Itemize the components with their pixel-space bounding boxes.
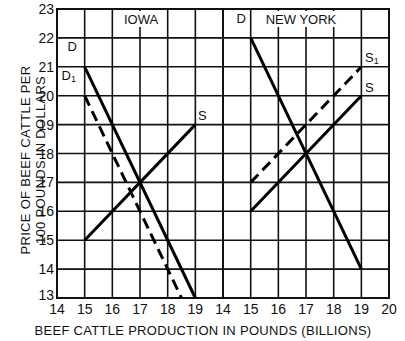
x-tick-label: 15 — [77, 301, 93, 317]
iowa-supply-label: S — [198, 108, 207, 123]
x-tick-label: 20 — [381, 301, 397, 317]
x-tick-label: 19 — [188, 301, 204, 317]
x-tick-label: 19 — [354, 301, 370, 317]
iowa-demand1-label: D1 — [62, 68, 76, 84]
y-axis-label-line2: 100 POUNDS IN DOLLARS — [33, 76, 48, 244]
ny-supply1-label: S1 — [365, 50, 379, 66]
y-tick-label: 14 — [38, 261, 54, 277]
x-tick-label: 18 — [160, 301, 176, 317]
supply-demand-chart: 1314151617181920212223 14151617181914151… — [0, 0, 405, 341]
y-tick-label: 21 — [38, 59, 54, 75]
x-tick-label: 17 — [132, 301, 148, 317]
ny-demand-label: D — [237, 11, 246, 26]
x-tick-label: 15 — [243, 301, 259, 317]
x-tick-label: 16 — [105, 301, 121, 317]
x-tick-label: 18 — [326, 301, 342, 317]
panel-title-new-york: NEW YORK — [266, 12, 337, 27]
x-tick-label: 14 — [49, 301, 65, 317]
x-axis-label: BEEF CATTLE PRODUCTION IN POUNDS (BILLIO… — [35, 323, 372, 338]
y-tick-label: 22 — [38, 30, 54, 46]
ny-supply-label: S — [365, 80, 374, 95]
iowa-demand-label: D — [68, 39, 77, 54]
x-tick-label: 16 — [271, 301, 287, 317]
x-tick-label: 14 — [215, 301, 231, 317]
y-axis-label-line1: PRICE OF BEEF CATTLE PER — [18, 66, 33, 255]
y-tick-label: 23 — [38, 1, 54, 17]
x-tick-label: 17 — [298, 301, 314, 317]
x-axis-ticks: 14151617181914151617181920 — [49, 301, 397, 317]
panel-title-iowa: IOWA — [124, 12, 159, 27]
